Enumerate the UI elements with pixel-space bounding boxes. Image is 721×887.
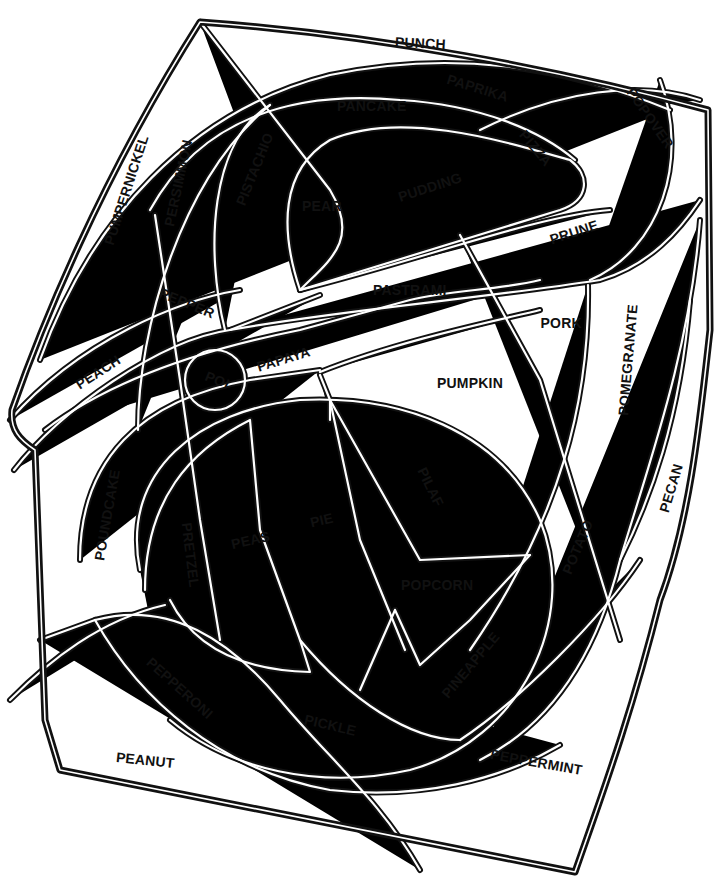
region-label-pastrami: PASTRAMI (373, 282, 447, 298)
region-label-pork: PORK (541, 315, 582, 331)
region-label-pumpkin: PUMPKIN (437, 375, 503, 391)
region-label-popcorn: POPCORN (401, 577, 473, 593)
region-label-punch: PUNCH (394, 34, 446, 53)
region-label-pancake: PANCAKE (337, 98, 407, 114)
region-label-pear: PEAR (302, 198, 342, 214)
region-borders (10, 22, 710, 872)
puzzle-drawing (0, 0, 721, 887)
